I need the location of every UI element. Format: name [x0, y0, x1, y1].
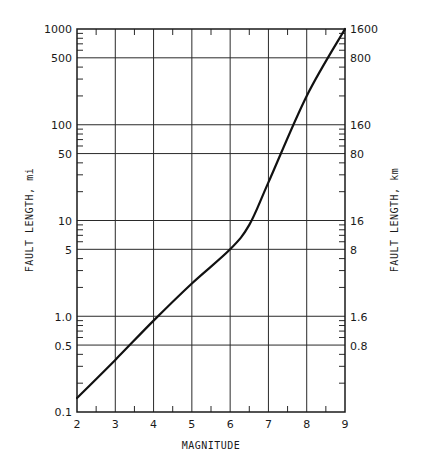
y-tick-5: 5	[65, 244, 72, 257]
x-tick-6: 6	[227, 418, 234, 431]
y-right-tick-800: 800	[350, 52, 371, 65]
y-right-tick-8: 8	[350, 244, 357, 257]
y-tick-0.5: 0.5	[55, 340, 73, 353]
y-right-tick-1.6: 1.6	[350, 311, 368, 324]
y-axis-title-right: FAULT LENGTH, km	[389, 168, 400, 272]
x-tick-8: 8	[303, 418, 310, 431]
grid-lines	[77, 29, 345, 412]
x-tick-3: 3	[112, 418, 119, 431]
y-tick-500: 500	[51, 52, 72, 65]
x-tick-labels: 23456789	[74, 418, 349, 431]
y-axis-title-left: FAULT LENGTH, mi	[24, 168, 35, 272]
y-tick-10: 10	[58, 215, 72, 228]
fault-length-chart: 1000 500 100 50 10 5 1.0 0.5 0.1 1600 80…	[0, 0, 421, 474]
x-axis-title: MAGNITUDE	[182, 440, 241, 451]
y-right-tick-80: 80	[350, 148, 364, 161]
y-right-tick-16: 16	[350, 215, 364, 228]
x-tick-5: 5	[188, 418, 195, 431]
y-right-tick-1600: 1600	[350, 23, 378, 36]
y-tick-0.1: 0.1	[55, 406, 73, 419]
x-tick-4: 4	[150, 418, 157, 431]
data-curve	[77, 29, 345, 398]
y-tick-1: 1.0	[55, 311, 73, 324]
y-tick-100: 100	[51, 119, 72, 132]
y-right-tick-160: 160	[350, 119, 371, 132]
x-tick-2: 2	[74, 418, 81, 431]
y-tick-1000: 1000	[44, 23, 72, 36]
y-tick-50: 50	[58, 148, 72, 161]
x-tick-7: 7	[265, 418, 272, 431]
x-tick-9: 9	[342, 418, 349, 431]
y-right-tick-0.8: 0.8	[350, 340, 368, 353]
